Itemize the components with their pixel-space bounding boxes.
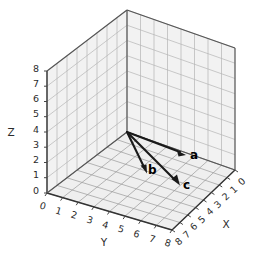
plot-canvas: 8 7 6 5 4 3 2 1 0 Z 0 1 2 3 4 5 6 7 8 Y … (0, 0, 260, 272)
x-axis-label: X (222, 218, 229, 230)
y-tick-label: 6 (132, 228, 141, 240)
z-tick-label: 5 (33, 108, 39, 119)
z-tick-label: 2 (33, 154, 39, 165)
y-tick-label: 4 (101, 219, 110, 231)
z-axis-label: Z (7, 126, 14, 138)
x-tick-label: 4 (204, 205, 216, 217)
z-tick-label: 7 (33, 78, 39, 89)
x-tick-label: 1 (228, 183, 240, 195)
z-tick-label: 8 (33, 63, 39, 74)
y-tick-label: 8 (164, 237, 173, 249)
y-tick-label: 2 (70, 209, 79, 221)
y-tick-label: 5 (117, 223, 126, 235)
vector-label-b: b (148, 163, 157, 177)
z-tick-labels: 8 7 6 5 4 3 2 1 0 (33, 63, 39, 196)
vector-label-c: c (183, 178, 190, 192)
y-tick-label: 1 (54, 205, 63, 217)
x-tick-label: 0 (236, 175, 248, 187)
x-tick-label: 6 (188, 220, 200, 232)
z-tick-label: 1 (33, 169, 39, 180)
y-axis-label: Y (100, 236, 108, 248)
y-tick-label: 7 (148, 233, 157, 245)
z-tick-label: 0 (33, 185, 39, 196)
z-tick-label: 6 (33, 93, 39, 104)
z-tick-label: 4 (33, 124, 39, 135)
figure-3d-vectors: 8 7 6 5 4 3 2 1 0 Z 0 1 2 3 4 5 6 7 8 Y … (0, 0, 260, 272)
vector-label-a: a (190, 148, 198, 162)
x-tick-label: 2 (220, 190, 232, 202)
x-tick-label: 8 (173, 235, 185, 247)
z-tick-label: 3 (33, 139, 39, 150)
y-tick-label: 0 (39, 200, 48, 212)
y-tick-label: 3 (85, 214, 94, 226)
x-tick-label: 7 (181, 228, 193, 240)
x-tick-label: 5 (196, 213, 208, 225)
x-tick-label: 3 (212, 198, 224, 210)
